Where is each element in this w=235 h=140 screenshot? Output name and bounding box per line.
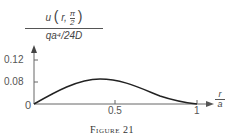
y-tick-0: 0 <box>25 99 31 111</box>
chart-plot <box>0 0 235 140</box>
y-tick-008: 0.08 <box>4 76 23 87</box>
x-tick-1: 1 <box>194 105 200 116</box>
x-tick-05: 0.5 <box>108 105 122 116</box>
figure-caption: Figure 21 <box>90 124 134 135</box>
x-axis-label: r a <box>215 90 225 109</box>
y-tick-012: 0.12 <box>4 54 23 65</box>
